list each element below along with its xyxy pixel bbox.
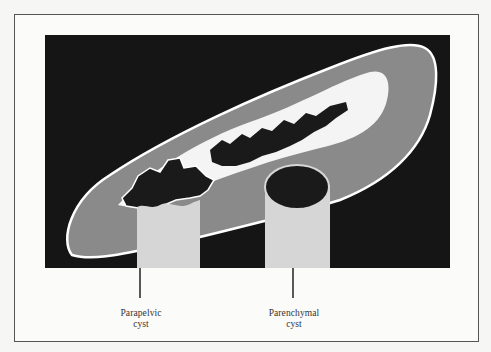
label-parapelvic-line2: cyst <box>108 319 174 330</box>
parapelvic-cyst <box>137 200 200 268</box>
label-parenchymal-line1: Parenchymal <box>256 308 332 319</box>
kidney-diagram <box>0 0 491 352</box>
label-parapelvic-line1: Parapelvic <box>108 308 174 319</box>
label-parenchymal-cyst: Parenchymal cyst <box>256 308 332 330</box>
label-parenchymal-line2: cyst <box>256 319 332 330</box>
parenchymal-cyst-top <box>265 165 329 209</box>
label-parapelvic-cyst: Parapelvic cyst <box>108 308 174 330</box>
